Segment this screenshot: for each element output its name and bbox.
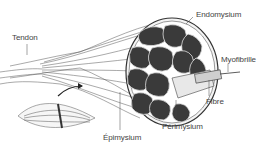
cross-section <box>126 18 240 126</box>
muscle-anatomy-illustration <box>0 0 272 148</box>
label-fibre: Fibre <box>206 97 224 106</box>
label-myofibrille: Myofibrille <box>221 55 256 64</box>
label-endomysium: Endomysium <box>196 10 241 19</box>
label-tendon: Tendon <box>12 33 38 42</box>
label-epimysium: Épimysium <box>103 133 141 142</box>
label-perimysium: Périmysium <box>162 122 203 131</box>
whole-muscle-inset <box>18 104 95 129</box>
